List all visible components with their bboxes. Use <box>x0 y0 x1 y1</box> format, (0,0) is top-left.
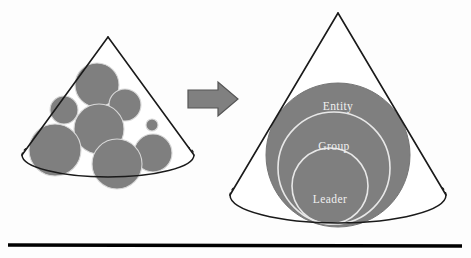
sphere-5 <box>29 124 81 176</box>
left-cone-spheres <box>29 63 172 189</box>
layer-entity-label: Entity <box>323 100 354 113</box>
sphere-6 <box>92 139 142 189</box>
sphere-8 <box>146 119 158 131</box>
diagram-canvas: Entity Group Leader <box>0 0 471 258</box>
diagram-svg: Entity Group Leader <box>0 0 471 258</box>
layer-leader-label: Leader <box>313 193 347 205</box>
transformation-arrow <box>188 82 238 116</box>
ground-baseline <box>8 245 462 246</box>
right-cone-group: Entity Group Leader <box>230 13 446 227</box>
arrow-shape <box>188 82 238 116</box>
layer-group-label: Group <box>318 140 349 153</box>
left-cone-group <box>22 37 194 189</box>
